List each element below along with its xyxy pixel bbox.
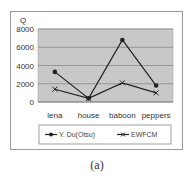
x-tick-label: house (78, 111, 100, 120)
x-tick-label: peppers (142, 111, 171, 120)
data-point (154, 83, 159, 88)
data-point (53, 70, 58, 75)
line-chart: Q02000400060008000lenahousebaboonpeppers… (11, 12, 184, 151)
y-tick-label: 8000 (16, 25, 34, 34)
x-tick-label: lena (47, 111, 63, 120)
figure-caption: (a) (0, 158, 194, 173)
y-tick-label: 2000 (16, 80, 34, 89)
legend-label: EWFCM (131, 131, 158, 138)
data-point (120, 38, 125, 43)
x-tick-label: baboon (109, 111, 136, 120)
chart-frame: Q02000400060008000lenahousebaboonpeppers… (10, 11, 183, 150)
y-axis-label: Q (20, 16, 26, 25)
y-tick-label: 6000 (16, 43, 34, 52)
y-tick-label: 4000 (16, 62, 34, 71)
y-tick-label: 0 (30, 98, 35, 107)
legend-label: Y. Du(Otsu) (59, 131, 95, 139)
